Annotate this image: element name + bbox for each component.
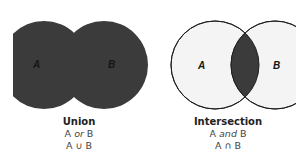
intersection-title: Intersection [153, 115, 303, 128]
set-b-label: B [108, 59, 115, 70]
intersection-venn-graphic: A B [154, 0, 307, 112]
set-a-label: A [197, 60, 205, 71]
intersection-description: A and B [153, 128, 303, 140]
intersection-venn-diagram: A B Intersection A and B A ∩ B [154, 0, 307, 164]
set-b-circle [60, 21, 148, 109]
set-a-label: A [32, 59, 40, 70]
union-notation: A ∪ B [4, 140, 154, 152]
union-venn-graphic: A B [0, 0, 153, 112]
union-venn-diagram: A B Union A or B A ∪ B [0, 0, 153, 164]
intersection-caption: Intersection A and B A ∩ B [153, 115, 303, 152]
set-b-label: B [273, 60, 280, 71]
union-title: Union [4, 115, 154, 128]
union-caption: Union A or B A ∪ B [4, 115, 154, 152]
intersection-notation: A ∩ B [153, 140, 303, 152]
union-description: A or B [4, 128, 154, 140]
